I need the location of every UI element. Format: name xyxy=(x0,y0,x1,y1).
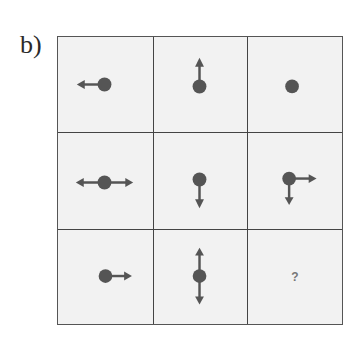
cell-r2-c1 xyxy=(58,133,154,230)
cell-r1-c2 xyxy=(154,37,248,133)
puzzle-label: b) xyxy=(20,30,42,60)
dot-arrow-right-down-icon xyxy=(248,133,342,229)
cell-r1-c1 xyxy=(58,37,154,133)
unknown-answer: ? xyxy=(291,270,298,284)
dot-arrow-left-icon xyxy=(58,37,153,132)
dot-arrow-left-right-icon xyxy=(58,133,153,229)
cell-r3-c3: ? xyxy=(248,230,342,324)
cell-r1-c3 xyxy=(248,37,342,133)
dot-arrow-up-down-icon xyxy=(154,230,247,324)
cell-r3-c1 xyxy=(58,230,154,324)
dot-arrow-right-icon xyxy=(58,230,153,324)
dot-icon xyxy=(248,37,342,132)
cell-r3-c2 xyxy=(154,230,248,324)
puzzle-grid: ? xyxy=(57,36,343,325)
dot-arrow-down-icon xyxy=(154,133,247,229)
dot-arrow-up-icon xyxy=(154,37,247,132)
cell-r2-c3 xyxy=(248,133,342,230)
cell-r2-c2 xyxy=(154,133,248,230)
